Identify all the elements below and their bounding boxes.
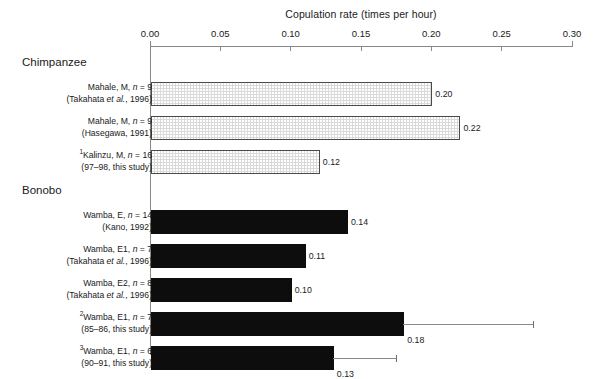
bar-value-label: 0.18: [407, 335, 424, 345]
error-bar-line: [403, 324, 532, 325]
bar: [151, 244, 306, 268]
bar-value-label: 0.10: [295, 285, 312, 295]
row-label: Wamba, E, n = 14(Kano, 1992): [0, 210, 152, 233]
footnote-marker: 1: [79, 148, 83, 155]
x-axis-tick: [361, 46, 362, 51]
x-axis-tick: [150, 41, 151, 47]
row-label: 3Wamba, E1, n = 6(90–91, this study): [0, 346, 152, 369]
x-axis-tick-label: 0.15: [352, 28, 371, 39]
x-axis-tick-label: 0.10: [281, 28, 300, 39]
x-axis-tick: [290, 46, 291, 51]
row-label: Mahale, M, n = 9(Takahata et al., 1996): [0, 82, 152, 105]
group-header-chimpanzee: Chimpanzee: [22, 56, 87, 68]
x-axis-tick-label: 0.05: [211, 28, 230, 39]
row-label: Wamba, E1, n = 7(Takahata et al., 1996): [0, 244, 152, 267]
x-axis-tick-label: 0.20: [422, 28, 441, 39]
x-axis-tick: [501, 46, 502, 51]
bar-value-label: 0.20: [435, 89, 452, 99]
footnote-marker: 3: [80, 344, 84, 351]
error-bar-line: [333, 358, 396, 359]
bar-value-label: 0.14: [351, 217, 368, 227]
bar-value-label: 0.12: [323, 157, 340, 167]
bar-value-label: 0.13: [337, 369, 354, 379]
error-bar-cap: [533, 321, 534, 328]
x-axis-tick-label: 0.30: [563, 28, 582, 39]
bar: [151, 346, 334, 370]
x-axis-title: Copulation rate (times per hour): [150, 8, 572, 20]
bar-value-label: 0.22: [463, 123, 480, 133]
x-axis-tick-label: 0.00: [141, 28, 160, 39]
bar: [151, 82, 432, 106]
row-label: 1Kalinzu, M, n = 16(97–98, this study): [0, 150, 152, 173]
x-axis-tick: [572, 41, 573, 47]
bar-value-label: 0.11: [309, 251, 325, 261]
bar: [151, 278, 292, 302]
x-axis-tick: [431, 46, 432, 51]
error-bar-cap: [396, 355, 397, 362]
bar: [151, 210, 348, 234]
bar: [151, 312, 404, 336]
bar: [151, 150, 320, 174]
row-label: 2Wamba, E1, n = 7(85–86, this study): [0, 312, 152, 335]
row-label: Wamba, E2, n = 8(Takahata et al., 1996): [0, 278, 152, 301]
x-axis-tick-label: 0.25: [492, 28, 511, 39]
bar: [151, 116, 460, 140]
footnote-marker: 2: [80, 310, 84, 317]
x-axis-tick: [220, 46, 221, 51]
group-header-bonobo: Bonobo: [22, 184, 62, 196]
row-label: Mahale, M, n = 9(Hasegawa, 1991): [0, 116, 152, 139]
